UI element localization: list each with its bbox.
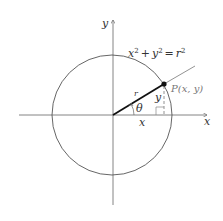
ray-extension xyxy=(164,66,195,84)
theta-label: θ xyxy=(136,102,143,115)
point-p-label: P(x, y) xyxy=(170,83,203,94)
horizontal-x-label: x xyxy=(139,116,146,129)
x-axis-label: x xyxy=(204,115,211,128)
right-angle-marker xyxy=(156,107,164,115)
equation-label: x2+y2=r2 xyxy=(128,47,186,60)
point-p xyxy=(161,81,166,86)
vertical-y-label: y xyxy=(154,91,162,104)
polar-diagram: y x x2+y2=r2 P(x, y) r θ x y xyxy=(0,0,223,221)
radius-label: r xyxy=(134,89,139,98)
y-axis-label: y xyxy=(101,17,109,30)
